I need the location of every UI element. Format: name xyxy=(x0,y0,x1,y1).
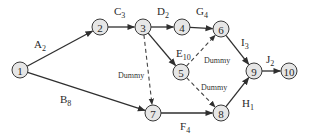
node-label: 7 xyxy=(150,108,156,120)
activity-duration: 1 xyxy=(250,103,254,112)
activity-name: B xyxy=(60,93,67,105)
activity-duration: 2 xyxy=(42,44,46,53)
activity-label: J2 xyxy=(266,53,274,68)
activity-label: B8 xyxy=(60,93,71,108)
node-label: 5 xyxy=(178,67,184,79)
activity-duration: 3 xyxy=(121,11,125,20)
activity-name: G xyxy=(196,5,204,17)
activity-name: A xyxy=(34,38,42,50)
activity-label: A2 xyxy=(34,38,46,53)
activity-label: E10 xyxy=(176,47,191,62)
node-1: 1 xyxy=(12,62,28,78)
activity-duration: 2 xyxy=(165,11,169,20)
node-label: 10 xyxy=(284,66,296,78)
activity-name: D xyxy=(157,5,165,17)
node-10: 10 xyxy=(281,63,297,79)
activity-duration: 4 xyxy=(204,11,208,20)
node-label: 8 xyxy=(218,108,224,120)
node-9: 9 xyxy=(246,63,262,79)
activity-duration: 4 xyxy=(186,126,190,135)
node-label: 3 xyxy=(140,22,146,34)
node-6: 6 xyxy=(213,21,229,37)
activity-duration: 10 xyxy=(183,53,191,62)
node-7: 7 xyxy=(145,105,161,121)
activity-label: C3 xyxy=(114,5,125,20)
network-diagram: A2B8C3D2G4E10I3J2F4H1DummyDummyDummy 123… xyxy=(0,0,315,137)
activity-duration: 3 xyxy=(245,42,249,51)
dummy-label: Dummy xyxy=(201,83,227,92)
node-4: 4 xyxy=(174,19,190,35)
node-label: 6 xyxy=(218,24,224,36)
activity-duration: 8 xyxy=(67,99,71,108)
node-5: 5 xyxy=(173,64,189,80)
activity-name: C xyxy=(114,5,121,17)
activity-label: D2 xyxy=(157,5,169,20)
activity-label: H1 xyxy=(242,97,254,112)
node-3: 3 xyxy=(135,19,151,35)
edge-3-7 xyxy=(144,35,152,105)
activity-duration: 2 xyxy=(270,59,274,68)
node-label: 2 xyxy=(97,22,103,34)
edge-3-5 xyxy=(148,33,175,65)
activity-label: F4 xyxy=(180,120,190,135)
nodes-layer: 12345678910 xyxy=(12,19,297,121)
activity-label: I3 xyxy=(241,36,249,51)
node-label: 4 xyxy=(179,22,185,34)
node-label: 1 xyxy=(17,65,23,77)
dummy-label: Dummy xyxy=(204,56,230,65)
dummy-label: Dummy xyxy=(118,71,144,80)
activity-name: H xyxy=(242,97,250,109)
node-label: 9 xyxy=(251,66,257,78)
edge-4-6 xyxy=(190,27,213,28)
node-2: 2 xyxy=(92,19,108,35)
activity-label: G4 xyxy=(196,5,208,20)
node-8: 8 xyxy=(213,105,229,121)
